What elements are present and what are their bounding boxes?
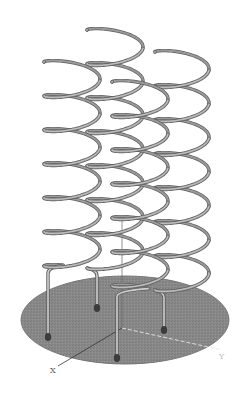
- spring-foot-anchor: [45, 333, 51, 341]
- base-plate: [21, 276, 229, 364]
- spring-foot-anchor: [94, 304, 100, 312]
- spring-foot-anchor: [161, 326, 167, 334]
- spring-diagram: X Y: [0, 0, 251, 396]
- y-axis-label: Y: [218, 352, 225, 361]
- x-axis-label: X: [50, 366, 56, 375]
- spring-foot-anchor: [114, 354, 120, 362]
